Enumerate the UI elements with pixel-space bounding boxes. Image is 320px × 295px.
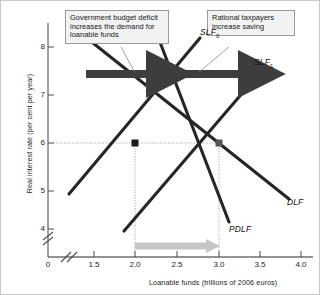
plot-canvas	[1, 1, 320, 295]
curve-label-slf1-text: SLF	[254, 57, 270, 67]
y-tick-5: 5	[29, 186, 45, 195]
quantity-change-arrow	[135, 239, 220, 253]
loanable-funds-figure: Real interest rate (per cent per year) L…	[0, 0, 320, 295]
curve-label-slf0-sub: 0	[216, 33, 220, 39]
curve-label-pdlf: PDLF	[229, 224, 251, 234]
curve-label-dlf: DLF	[287, 197, 303, 207]
y-tick-8: 8	[29, 42, 45, 51]
y-tick-6: 6	[29, 138, 45, 147]
curve-slf1	[124, 69, 263, 231]
x-tick-2-0: 2.0	[123, 260, 147, 269]
curve-label-slf0-text: SLF	[200, 27, 216, 37]
y-tick-4: 4	[29, 224, 45, 233]
equilibrium-marker-initial	[132, 140, 139, 147]
equilibrium-guide-lines	[51, 143, 219, 257]
x-axis-ticks	[94, 251, 301, 257]
y-axis-ticks	[48, 47, 54, 229]
x-tick-4-0: 4.0	[289, 260, 313, 269]
x-tick-origin: 0	[36, 260, 60, 269]
y-tick-7: 7	[29, 90, 45, 99]
curve-slf0	[69, 38, 200, 194]
equilibrium-marker-new	[216, 140, 223, 147]
x-axis-title: Loanable funds (trillions of 2006 euros)	[149, 278, 277, 287]
x-tick-3-0: 3.0	[207, 260, 231, 269]
curve-label-slf1: SLF1	[254, 57, 274, 69]
curve-label-slf1-sub: 1	[270, 63, 274, 69]
callout-rational-taxpayers: Rational taxpayers increase saving	[207, 10, 295, 36]
x-tick-3-5: 3.5	[248, 260, 272, 269]
curve-label-pdlf-text: PDLF	[229, 224, 251, 234]
curve-label-dlf-text: DLF	[287, 197, 303, 207]
curve-label-slf0: SLF0	[200, 27, 220, 39]
curve-pdlf	[158, 37, 229, 222]
x-tick-1-5: 1.5	[82, 260, 106, 269]
x-tick-2-5: 2.5	[165, 260, 189, 269]
callout-budget-deficit: Government budget deficit increases the …	[65, 10, 169, 44]
